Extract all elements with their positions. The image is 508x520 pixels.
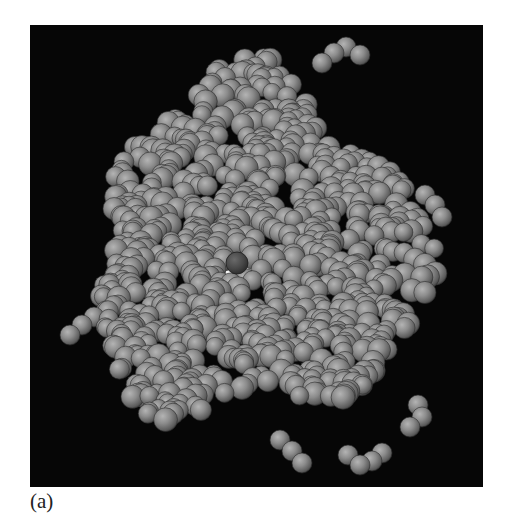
atom-sphere — [290, 386, 309, 405]
figure: (a) — [0, 0, 508, 520]
dark-atom — [226, 252, 248, 274]
atom-sphere — [215, 383, 234, 402]
atom-sphere — [257, 370, 278, 391]
atom-sphere — [414, 281, 436, 303]
atom-sphere — [432, 207, 452, 227]
atom-spheres — [60, 37, 452, 475]
dark-atom-sphere — [226, 252, 248, 274]
atom-sphere — [60, 325, 80, 345]
atom-sphere — [350, 455, 370, 475]
protein-space-filling-model — [30, 25, 483, 487]
atom-sphere — [154, 408, 178, 432]
atom-sphere — [394, 223, 413, 242]
atom-sphere — [230, 376, 253, 399]
atom-sphere — [312, 53, 332, 73]
figure-caption: (a) — [30, 491, 53, 512]
atom-sphere — [197, 176, 217, 196]
atom-sphere — [109, 359, 129, 379]
atom-sphere — [190, 399, 211, 420]
atom-sphere — [350, 45, 370, 65]
atom-sphere — [331, 386, 355, 410]
molecule-render-panel — [30, 25, 483, 487]
atom-sphere — [400, 417, 420, 437]
atom-sphere — [292, 453, 312, 473]
atom-sphere — [394, 317, 415, 338]
